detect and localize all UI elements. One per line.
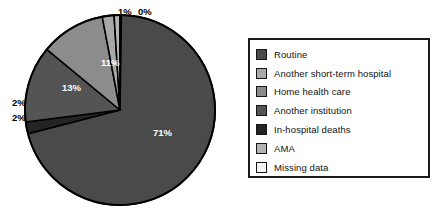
pie-slice-percent-label: 2% (12, 113, 26, 123)
pie-slice-percent-label: 11% (101, 58, 120, 68)
pie-chart-figure: 71%2%11%13%2%1%0% RoutineAnother short-t… (0, 0, 442, 214)
legend-item-label: AMA (274, 143, 295, 154)
legend-item[interactable]: In-hospital deaths (256, 120, 424, 139)
pie-slice-percent-label: 13% (62, 83, 81, 93)
chart-legend: RoutineAnother short-term hospitalHome h… (248, 38, 430, 178)
pie-slice-percent-label: 1% (118, 7, 132, 17)
pie-slice-percent-label: 0% (138, 7, 152, 17)
legend-color-swatch (256, 143, 267, 154)
legend-item[interactable]: Another short-term hospital (256, 64, 424, 83)
legend-color-swatch (256, 86, 267, 97)
pie-slice-percent-label: 2% (12, 98, 26, 108)
pie-plot-area: 71%2%11%13%2%1%0% (0, 0, 240, 214)
legend-items-list: RoutineAnother short-term hospitalHome h… (256, 45, 424, 173)
legend-item-label: Missing data (274, 162, 328, 173)
legend-item[interactable]: Another institution (256, 101, 424, 120)
legend-item-label: Home health care (274, 86, 351, 97)
pie-slice-percent-label: 71% (153, 128, 172, 138)
legend-color-swatch (256, 124, 267, 135)
pie-slices-group (25, 15, 215, 205)
legend-color-swatch (256, 49, 267, 60)
legend-item-label: In-hospital deaths (274, 124, 351, 135)
legend-item-label: Routine (274, 49, 307, 60)
legend-item[interactable]: Missing data (256, 158, 424, 177)
legend-item[interactable]: Routine (256, 45, 424, 64)
legend-item-label: Another institution (274, 105, 352, 116)
legend-item[interactable]: Home health care (256, 83, 424, 102)
legend-color-swatch (256, 105, 267, 116)
legend-item-label: Another short-term hospital (274, 68, 391, 79)
legend-color-swatch (256, 162, 267, 173)
legend-item[interactable]: AMA (256, 139, 424, 158)
pie-graphic (22, 12, 218, 208)
legend-color-swatch (256, 68, 267, 79)
